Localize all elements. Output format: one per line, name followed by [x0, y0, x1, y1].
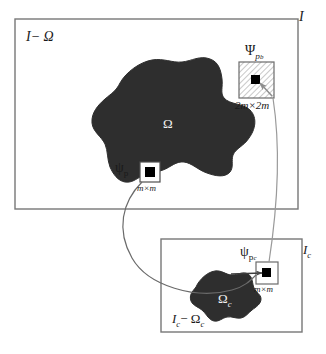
coarse-patch-symbol: ψ — [240, 244, 249, 259]
coarse-image-frame-label: Ic — [303, 243, 311, 259]
image-frame-label: I — [299, 10, 304, 24]
source-patch-size-label: m×m — [137, 184, 156, 193]
coarse-image-frame-label-sub: c — [307, 250, 311, 260]
source-patch-label: ψp — [115, 161, 128, 178]
image-background-label: I− Ω — [26, 30, 54, 44]
big-patch-size-label: 2m×2m — [235, 100, 269, 111]
image-background-label-text: I− Ω — [26, 29, 54, 44]
big-patch-subscript2: b — [260, 53, 264, 61]
coarse-background-label-rest-sub: c — [200, 319, 204, 329]
target-region-label: Ω — [163, 117, 173, 130]
big-patch-symbol: Ψ — [245, 43, 255, 58]
source-patch-center-square — [145, 167, 155, 177]
coarse-background-label-rest: − Ω — [180, 311, 200, 326]
coarse-target-region-symbol: Ω — [218, 291, 228, 306]
source-patch-symbol: ψ — [115, 160, 124, 175]
source-patch-subscript: p — [124, 168, 129, 178]
coarse-patch-size-label: m×m — [254, 285, 273, 294]
big-patch-center-square — [251, 75, 260, 84]
coarse-target-region-subscript: c — [228, 299, 232, 309]
figure-canvas — [0, 0, 326, 354]
big-patch-label: Ψpb — [245, 44, 263, 61]
coarse-patch-center-square — [262, 268, 271, 277]
figure-root: I I− Ω Ω ψp m×m Ψpb 2m×2m Ic ψpc m×m Ωc … — [0, 0, 326, 354]
coarse-patch-label: ψpc — [240, 245, 257, 262]
coarse-patch-subscript2: c — [253, 254, 256, 262]
coarse-background-label: Ic− Ωc — [172, 312, 204, 328]
coarse-target-region-label: Ωc — [218, 292, 231, 308]
